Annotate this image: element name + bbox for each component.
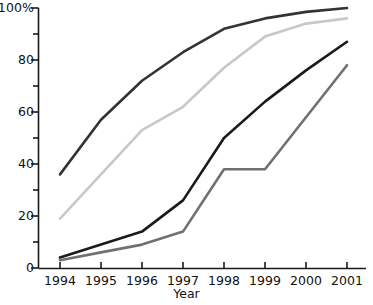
x-axis-ticks — [60, 262, 347, 269]
y-tick-label-80: 80 — [18, 54, 34, 67]
data-line-series-3-black — [60, 42, 347, 258]
y-tick-label-60: 60 — [18, 106, 34, 119]
y-tick-label-100: 100% — [0, 2, 34, 15]
x-tick-label-1995: 1995 — [85, 275, 117, 288]
data-line-series-4-medium-gray — [60, 65, 347, 260]
x-tick-label-1999: 1999 — [249, 275, 281, 288]
x-tick-label-2000: 2000 — [290, 275, 322, 288]
x-tick-label-1996: 1996 — [126, 275, 158, 288]
line-chart: 100% 80 60 40 20 0 1994 1995 1996 1997 1… — [0, 0, 373, 305]
x-tick-label-1998: 1998 — [208, 275, 240, 288]
x-tick-label-2001: 2001 — [331, 275, 363, 288]
data-line-series-1-dark — [60, 8, 347, 174]
y-tick-label-0: 0 — [26, 262, 34, 275]
x-axis-title: Year — [0, 288, 373, 301]
x-tick-label-1994: 1994 — [44, 275, 76, 288]
y-tick-label-40: 40 — [18, 158, 34, 171]
y-tick-label-20: 20 — [18, 210, 34, 223]
y-axis-tick-labels: 100% 80 60 40 20 0 — [0, 0, 34, 305]
data-series-group — [60, 8, 347, 260]
plot-area — [0, 0, 373, 305]
